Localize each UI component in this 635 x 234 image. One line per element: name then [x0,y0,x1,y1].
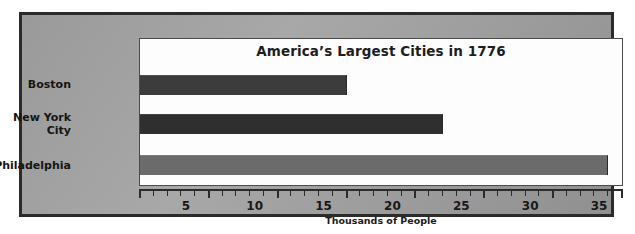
x-axis-tick [194,189,195,196]
x-axis-tick [387,189,388,196]
x-axis-tick-label: 5 [166,199,206,213]
chart-frame: America’s Largest Cities in 1776 Boston … [19,12,614,217]
x-axis-tick [180,189,181,196]
x-axis [139,189,623,199]
bar-philadelphia [140,155,608,175]
x-axis-title: Thousands of People [139,215,623,226]
x-axis-tick [139,189,141,198]
x-axis-tick [580,189,581,196]
x-axis-tick-label: 20 [372,199,412,213]
x-axis-tick [511,189,512,196]
category-label-boston: Boston [0,78,71,91]
category-label-new-york-city: New YorkCity [0,111,71,137]
x-axis-tick [249,189,250,196]
x-axis-tick [304,189,305,196]
x-axis-tick [470,189,471,196]
x-axis-tick [263,189,264,196]
x-axis-tick [607,189,608,196]
x-axis-tick [359,189,360,196]
x-axis-tick [497,189,498,196]
x-axis-tick [442,189,443,196]
x-axis-tick [290,189,291,196]
x-axis-tick [538,189,539,196]
x-axis-tick-label: 35 [579,199,619,213]
x-axis-tick [428,189,429,196]
x-axis-tick [153,189,154,196]
x-axis-tick [525,189,526,196]
x-axis-tick [401,189,402,196]
x-axis-tick [235,189,236,196]
category-label-philadelphia: Philadelphia [0,159,71,172]
x-axis-tick [621,189,623,198]
chart-figure: America’s Largest Cities in 1776 Boston … [0,0,635,234]
x-axis-tick-label: 30 [510,199,550,213]
x-axis-tick [318,189,319,196]
x-axis-tick [456,189,457,196]
x-axis-tick [167,189,168,196]
x-axis-tick [414,189,416,198]
bar-boston [140,75,347,95]
x-axis-tick [332,189,333,196]
bars-container [140,39,622,185]
x-axis-tick [373,189,374,196]
x-axis-tick [208,189,210,198]
x-axis-tick [346,189,348,198]
x-axis-tick [566,189,567,196]
bar-new-york-city [140,114,443,134]
x-axis-tick-label: 25 [441,199,481,213]
x-axis-tick [222,189,223,196]
x-axis-line [139,189,623,191]
x-axis-tick-label: 15 [304,199,344,213]
x-axis-tick-label: 10 [235,199,275,213]
x-axis-tick [277,189,279,198]
x-axis-tick [593,189,594,196]
x-axis-tick [483,189,485,198]
x-axis-tick [552,189,554,198]
